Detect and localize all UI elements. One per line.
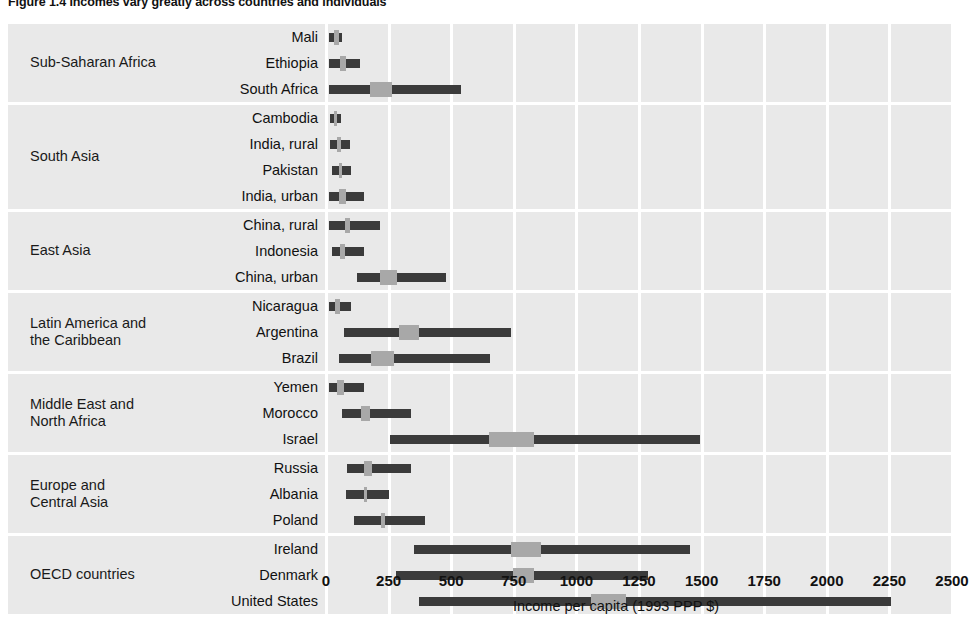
median-band-block [371,351,394,366]
income-range-bar [329,383,364,392]
row-plot [326,264,952,290]
chart-row: Russia [8,455,952,481]
chart-row: Argentina [8,319,952,345]
row-plot [326,76,952,102]
median-band-block [489,432,534,447]
country-label: India, rural [8,131,318,157]
chart-row: South Africa [8,76,952,102]
country-label: Russia [8,455,318,481]
income-range-bar [329,221,380,230]
income-range-bar [347,464,411,473]
country-label: China, rural [8,212,318,238]
median-band-block [381,513,385,528]
income-range-bar [390,435,700,444]
axis-tick-label: 1250 [622,572,655,589]
row-plot [326,212,952,238]
income-range-bar [339,354,490,363]
figure-title: Figure 1.4 Incomes vary greatly across c… [8,0,386,9]
x-axis: 02505007501000125015001750200022502500 [8,572,952,596]
row-plot [326,374,952,400]
median-band-block [337,137,341,152]
axis-tick-label: 500 [439,572,464,589]
median-band-block [337,380,343,395]
country-label: Yemen [8,374,318,400]
median-band-block [339,163,343,178]
axis-tick-label: 2000 [810,572,843,589]
median-band-block [399,325,419,340]
row-plot [326,455,952,481]
country-label: China, urban [8,264,318,290]
chart-row: Brazil [8,345,952,371]
median-band-block [364,461,373,476]
median-band-block [361,406,370,421]
row-plot [326,157,952,183]
country-label: Poland [8,507,318,533]
row-plot [326,319,952,345]
chart-row: Poland [8,507,952,533]
axis-tick-label: 2500 [935,572,968,589]
income-range-bar [329,192,364,201]
row-plot [326,105,952,131]
axis-tick-label: 1750 [748,572,781,589]
chart-row: Israel [8,426,952,452]
chart-row: Mali [8,24,952,50]
chart-row: Pakistan [8,157,952,183]
chart-row: Ethiopia [8,50,952,76]
country-label: Ethiopia [8,50,318,76]
country-label: Argentina [8,319,318,345]
median-band-block [340,244,345,259]
axis-tick-label: 1000 [560,572,593,589]
row-plot [326,24,952,50]
x-axis-title-label: Income per capita (1993 PPP $) [513,598,719,614]
income-range-bar [329,302,352,311]
country-label: India, urban [8,183,318,209]
median-band-block [364,487,368,502]
axis-tick-label: 750 [501,572,526,589]
row-plot [326,426,952,452]
median-band-block [334,111,338,126]
income-range-bar [414,545,691,554]
median-band-block [339,189,347,204]
income-range-bar [346,490,389,499]
income-range-bar [342,409,411,418]
income-range-bar [344,328,512,337]
country-label: Nicaragua [8,293,318,319]
chart-row: India, rural [8,131,952,157]
median-band-block [370,82,393,97]
chart-row: Ireland [8,536,952,562]
median-band-block [345,218,350,233]
country-label: Morocco [8,400,318,426]
row-plot [326,400,952,426]
axis-tick-label: 1500 [685,572,718,589]
country-label: Brazil [8,345,318,371]
median-band-block [340,56,346,71]
chart-plot-area: Sub-Saharan AfricaMaliEthiopiaSouth Afri… [8,24,952,569]
chart-row: China, rural [8,212,952,238]
row-plot [326,536,952,562]
country-label: Israel [8,426,318,452]
country-label: Ireland [8,536,318,562]
income-range-bar [354,516,425,525]
income-range-bar [332,247,363,256]
country-label: Indonesia [8,238,318,264]
country-label: Cambodia [8,105,318,131]
row-plot [326,293,952,319]
chart-row: China, urban [8,264,952,290]
chart-row: Morocco [8,400,952,426]
chart-row: India, urban [8,183,952,209]
income-range-bar [357,273,446,282]
row-plot [326,238,952,264]
median-band-block [511,542,541,557]
country-label: Albania [8,481,318,507]
row-plot [326,131,952,157]
median-band-block [335,299,340,314]
row-plot [326,50,952,76]
x-axis-title: Income per capita (1993 PPP $) [0,598,968,614]
chart-row: Yemen [8,374,952,400]
axis-tick-label: 250 [376,572,401,589]
country-label: Pakistan [8,157,318,183]
axis-tick-label: 0 [322,572,330,589]
income-range-bar [329,85,462,94]
country-label: Mali [8,24,318,50]
